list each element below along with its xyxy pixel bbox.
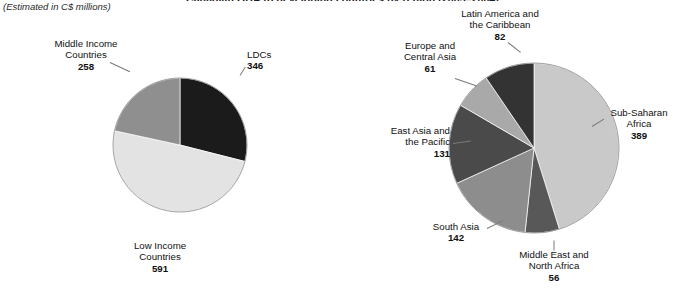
slice-value-sub-saharan-africa: 389 — [598, 130, 680, 141]
slice-label-europe-central-asia-line2: Central Asia — [404, 51, 456, 62]
slice-value-europe-central-asia: 61 — [380, 63, 480, 74]
slice-label-middle-east-north-africa-line2: North Africa — [529, 260, 580, 271]
slice-value-east-asia-pacific: 131 — [352, 148, 450, 159]
slice-label-latin-america-line1: Latin America and — [461, 8, 539, 19]
slice-label-middle-east-north-africa-line1: Middle East and — [519, 249, 588, 260]
slice-label-low-income: Low Income Countries 591 — [104, 240, 216, 274]
slice-label-europe-central-asia-line1: Europe and — [405, 40, 455, 51]
slice-value-ldcs: 346 — [247, 60, 307, 71]
slice-label-sub-saharan-africa-line1: Sub-Saharan — [610, 107, 667, 118]
slice-label-middle-east-north-africa: Middle East and North Africa 56 — [492, 249, 616, 283]
slice-label-low-income-line1: Low Income — [134, 240, 186, 251]
slice-label-sub-saharan-africa: Sub-Saharan Africa 389 — [598, 107, 680, 141]
slice-label-south-asia: South Asia 142 — [408, 221, 504, 244]
chart-canvas: Canadian ODA to developing countries by … — [0, 0, 682, 290]
leader-line-latin-america — [508, 42, 521, 53]
slice-label-latin-america: Latin America and the Caribbean 82 — [430, 8, 570, 42]
leader-line-middle-east-north-africa — [554, 241, 555, 251]
slice-label-sub-saharan-africa-line2: Africa — [627, 118, 652, 129]
slice-label-middle-income-line1: Middle Income — [55, 38, 118, 49]
page-title-clipped: Canadian ODA to developing countries by … — [186, 0, 516, 1]
slice-value-middle-east-north-africa: 56 — [492, 272, 616, 283]
slice-label-south-asia-name: South Asia — [433, 221, 479, 232]
slice-label-ldcs: LDCs 346 — [247, 49, 307, 72]
slice-label-latin-america-line2: the Caribbean — [470, 19, 531, 30]
slice-label-ldcs-name: LDCs — [247, 49, 271, 60]
pie-chart-income-group — [96, 61, 264, 229]
slice-value-middle-income: 258 — [34, 61, 138, 72]
slice-label-europe-central-asia: Europe and Central Asia 61 — [380, 40, 480, 74]
slice-label-middle-income-line2: Countries — [65, 49, 106, 60]
chart-subtitle: (Estimated in C$ millions) — [3, 1, 111, 12]
slice-value-low-income: 591 — [104, 263, 216, 274]
slice-label-east-asia-pacific: East Asia and the Pacific 131 — [352, 125, 450, 159]
slice-label-east-asia-pacific-line2: the Pacific — [405, 136, 450, 147]
slice-value-south-asia: 142 — [408, 232, 504, 243]
slice-label-east-asia-pacific-line1: East Asia and — [391, 125, 450, 136]
slice-label-low-income-line2: Countries — [139, 251, 180, 262]
